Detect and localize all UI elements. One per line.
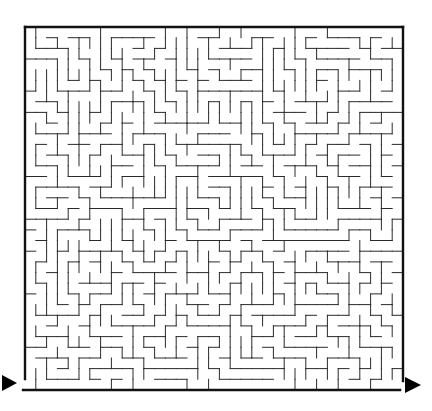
- maze-board[interactable]: [0, 0, 432, 411]
- entrance-arrow-icon: [2, 375, 17, 391]
- exit-arrow-icon: [405, 377, 421, 393]
- maze-walls: [25, 27, 403, 390]
